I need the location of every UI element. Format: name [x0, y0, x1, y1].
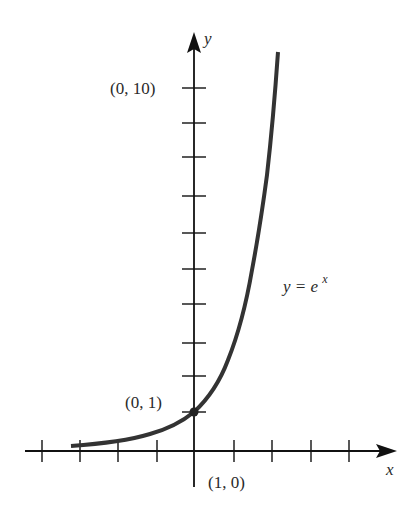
function-label-base: y = e [281, 277, 319, 296]
y-axis-label: y [202, 29, 212, 48]
svg-text:y = e x: y = e x [281, 272, 328, 296]
function-label: y = e x [281, 272, 328, 296]
x-axis-label: x [385, 460, 394, 479]
point-marker-0-1 [190, 408, 199, 417]
annotation-0-1: (0, 1) [125, 393, 162, 412]
annotation-0-10: (0, 10) [110, 79, 155, 98]
exponential-curve [71, 52, 278, 446]
function-label-exponent: x [321, 272, 328, 286]
exponential-graph: x y (0, 10) (0, 1) (1, 0) y = e x [0, 0, 410, 512]
annotation-1-0: (1, 0) [208, 473, 245, 492]
